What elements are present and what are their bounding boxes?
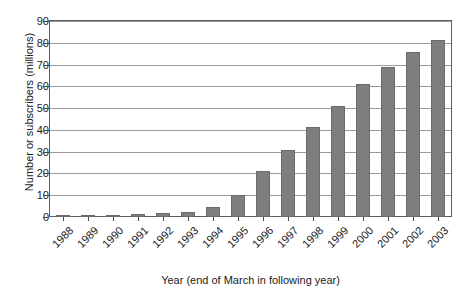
bar-slot (351, 21, 376, 217)
x-tick-mark (413, 217, 414, 221)
x-tick-mark (438, 217, 439, 221)
bar-slot (225, 21, 250, 217)
x-tick-mark (263, 217, 264, 221)
x-tick-mark (163, 217, 164, 221)
bar-slot (100, 21, 125, 217)
bar[interactable] (381, 67, 395, 217)
bar-slot (301, 21, 326, 217)
bar-slot (276, 21, 301, 217)
bar[interactable] (356, 84, 370, 217)
x-tick-label: 1998 (300, 224, 326, 250)
bar[interactable] (206, 207, 220, 217)
x-tick-mark (213, 217, 214, 221)
x-tick-mark (63, 217, 64, 221)
chart-figure: Number or subscribers (millions) 0102030… (0, 0, 463, 302)
x-tick-label: 1991 (124, 224, 150, 250)
x-tick-mark (338, 217, 339, 221)
x-tick-mark (238, 217, 239, 221)
y-axis-ticks: 0102030405060708090 (0, 0, 49, 302)
bar-slot (125, 21, 150, 217)
x-tick-label: 1993 (175, 224, 201, 250)
x-tick-label: 1989 (74, 224, 100, 250)
x-tick-label: 2002 (400, 224, 426, 250)
bar-slot (150, 21, 175, 217)
x-tick-label: 1997 (275, 224, 301, 250)
x-tick-label: 1995 (225, 224, 251, 250)
y-tick-mark (43, 217, 49, 218)
x-tick-mark (88, 217, 89, 221)
bar[interactable] (256, 171, 270, 217)
bar-series (50, 21, 451, 217)
x-tick-label: 1996 (250, 224, 276, 250)
bar-slot (376, 21, 401, 217)
x-tick-mark (388, 217, 389, 221)
bar[interactable] (231, 195, 245, 217)
bar[interactable] (406, 52, 420, 218)
bar[interactable] (431, 40, 445, 217)
x-tick-mark (188, 217, 189, 221)
bar-slot (175, 21, 200, 217)
bar[interactable] (306, 127, 320, 217)
x-tick-mark (313, 217, 314, 221)
x-tick-label: 2001 (375, 224, 401, 250)
bar-slot (50, 21, 75, 217)
bar-slot (326, 21, 351, 217)
bar[interactable] (281, 150, 295, 218)
bar-slot (401, 21, 426, 217)
bar-slot (251, 21, 276, 217)
x-tick-label: 1988 (49, 224, 75, 250)
x-tick-label: 1999 (325, 224, 351, 250)
x-tick-label: 2003 (425, 224, 451, 250)
x-axis-tick-labels: 1988198919901991199219931994199519961997… (50, 222, 451, 268)
x-tick-label: 1992 (149, 224, 175, 250)
bar[interactable] (331, 106, 345, 217)
x-tick-label: 2000 (350, 224, 376, 250)
x-tick-label: 1994 (200, 224, 226, 250)
bar-slot (75, 21, 100, 217)
bar-slot (426, 21, 451, 217)
x-tick-label: 1990 (99, 224, 125, 250)
bar-slot (200, 21, 225, 217)
x-tick-mark (363, 217, 364, 221)
x-tick-mark (113, 217, 114, 221)
x-axis-title: Year (end of March in following year) (49, 274, 452, 286)
x-tick-mark (288, 217, 289, 221)
x-tick-mark (138, 217, 139, 221)
